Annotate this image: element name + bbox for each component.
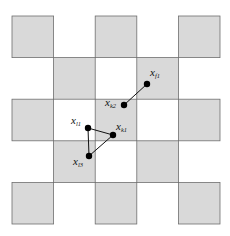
shaded-cell: [12, 16, 54, 58]
point-xf1: [144, 81, 150, 87]
label-xl1: xl1: [70, 114, 81, 127]
diagram-canvas: xf1xk2xl1xk1xl3: [0, 0, 230, 236]
shaded-cell: [178, 99, 220, 141]
shaded-cell: [178, 16, 220, 58]
shaded-cell: [54, 58, 96, 100]
point-xk2: [121, 102, 127, 108]
shaded-cell: [178, 182, 220, 224]
point-xk1: [110, 132, 116, 138]
shaded-cell: [95, 16, 137, 58]
shaded-cell: [95, 182, 137, 224]
shaded-cell: [12, 182, 54, 224]
point-xl1: [85, 125, 91, 131]
shaded-cell: [137, 141, 179, 183]
point-xl3: [86, 153, 92, 159]
shaded-cell: [12, 99, 54, 141]
label-xk2: xk2: [104, 96, 117, 109]
